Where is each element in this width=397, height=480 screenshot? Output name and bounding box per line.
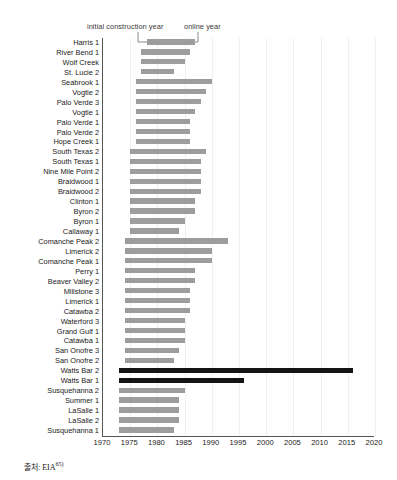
x-tick-1995: 1995 [230, 438, 247, 447]
table-row: Palo Verde 2 [103, 128, 375, 138]
x-tick-1975: 1975 [121, 438, 138, 447]
table-row: LaSalle 1 [103, 406, 375, 416]
table-row: Limerick 1 [103, 297, 375, 307]
table-row: Watts Bar 1 [103, 376, 375, 386]
x-tick-1985: 1985 [175, 438, 192, 447]
table-row: Grand Gulf 1 [103, 327, 375, 337]
bar-byron-1 [130, 218, 184, 223]
bar-south-texas-2 [130, 149, 206, 154]
row-label-south-texas-1: South Texas 1 [52, 158, 99, 166]
source-note: 출처: EIA65) [24, 461, 64, 472]
bar-palo-verde-1 [136, 119, 190, 124]
table-row: Summer 1 [103, 396, 375, 406]
table-row: South Texas 2 [103, 147, 375, 157]
legend-label-online-year: online year [184, 22, 221, 31]
bar-perry-1 [125, 268, 196, 273]
bar-watts-bar-1 [119, 378, 244, 383]
row-label-byron-1: Byron 1 [74, 218, 99, 226]
row-label-catawba-1: Catawba 1 [64, 337, 99, 345]
row-label-river-bend-1: River Bend 1 [56, 49, 99, 57]
bar-palo-verde-2 [136, 129, 190, 134]
bar-lasalle-1 [119, 407, 179, 412]
bar-limerick-2 [125, 248, 212, 253]
bar-susquehanna-2 [119, 388, 184, 393]
row-label-lasalle-2: LaSalle 2 [68, 417, 99, 425]
table-row: Susquehanna 2 [103, 386, 375, 396]
bar-clinton-1 [130, 198, 195, 203]
table-row: Nine Mile Point 2 [103, 167, 375, 177]
legend-label-initial-construction-year: initial construction year [87, 22, 163, 31]
row-label-limerick-2: Limerick 2 [65, 248, 99, 256]
bar-millstone-3 [125, 288, 190, 293]
table-row: Comanche Peak 1 [103, 257, 375, 267]
row-label-braidwood-1: Braidwood 1 [58, 178, 99, 186]
table-row: Palo Verde 3 [103, 98, 375, 108]
x-tick-2000: 2000 [257, 438, 274, 447]
table-row: Byron 2 [103, 207, 375, 217]
table-row: Hope Creek 1 [103, 138, 375, 148]
table-row: Perry 1 [103, 267, 375, 277]
row-label-palo-verde-1: Palo Verde 1 [57, 119, 99, 127]
row-label-comanche-peak-2: Comanche Peak 2 [38, 238, 99, 246]
row-label-byron-2: Byron 2 [74, 208, 99, 216]
row-label-braidwood-2: Braidwood 2 [58, 188, 99, 196]
table-row: South Texas 1 [103, 157, 375, 167]
row-label-summer-1: Summer 1 [65, 397, 99, 405]
row-label-palo-verde-3: Palo Verde 3 [57, 99, 99, 107]
row-label-millstone-3: Millstone 3 [64, 288, 99, 296]
table-row: Vogtle 1 [103, 108, 375, 118]
table-row: San Onofre 3 [103, 346, 375, 356]
bar-south-texas-1 [130, 159, 201, 164]
table-row: Harris 1 [103, 38, 375, 48]
row-label-comanche-peak-1: Comanche Peak 1 [38, 258, 99, 266]
row-label-vogtle-1: Vogtle 1 [72, 109, 99, 117]
table-row: Catawba 2 [103, 307, 375, 317]
row-label-hope-creek-1: Hope Creek 1 [53, 138, 99, 146]
table-row: Byron 1 [103, 217, 375, 227]
nuclear-reactor-construction-timeline-chart: initial construction year online year Ha… [0, 0, 397, 480]
table-row: Millstone 3 [103, 287, 375, 297]
table-row: Watts Bar 2 [103, 366, 375, 376]
row-label-watts-bar-1: Watts Bar 1 [61, 377, 99, 385]
bar-comanche-peak-1 [125, 258, 212, 263]
row-label-waterford-3: Waterford 3 [61, 318, 99, 326]
x-tick-2015: 2015 [338, 438, 355, 447]
x-tick-1990: 1990 [202, 438, 219, 447]
bar-vogtle-2 [136, 89, 207, 94]
bar-grand-gulf-1 [125, 328, 185, 333]
row-label-callaway-1: Callaway 1 [63, 228, 99, 236]
bar-seabrook-1 [136, 79, 212, 84]
bar-waterford-3 [125, 318, 185, 323]
row-label-palo-verde-2: Palo Verde 2 [57, 129, 99, 137]
row-label-beaver-valley-2: Beaver Valley 2 [48, 278, 99, 286]
table-row: Susquehanna 1 [103, 426, 375, 436]
x-tick-2005: 2005 [284, 438, 301, 447]
bar-byron-2 [130, 208, 195, 213]
row-label-san-onofre-2: San Onofre 2 [55, 357, 99, 365]
table-row: Wolf Creek [103, 58, 375, 68]
table-row: Palo Verde 1 [103, 118, 375, 128]
row-label-clinton-1: Clinton 1 [70, 198, 99, 206]
bar-catawba-1 [125, 338, 185, 343]
table-row: Braidwood 2 [103, 187, 375, 197]
bar-nine-mile-point-2 [130, 169, 201, 174]
plot-area: Harris 1River Bend 1Wolf CreekSt. Lucie … [102, 38, 374, 436]
x-axis-line [102, 436, 374, 437]
table-row: Clinton 1 [103, 197, 375, 207]
x-tick-1980: 1980 [148, 438, 165, 447]
table-row: Beaver Valley 2 [103, 277, 375, 287]
x-tick-2010: 2010 [311, 438, 328, 447]
bar-wolf-creek [141, 59, 185, 64]
bar-san-onofre-3 [125, 348, 179, 353]
gridline [375, 38, 376, 436]
table-row: Comanche Peak 2 [103, 237, 375, 247]
row-label-vogtle-2: Vogtle 2 [72, 89, 99, 97]
bar-limerick-1 [125, 298, 190, 303]
bar-summer-1 [119, 397, 179, 402]
row-label-catawba-2: Catawba 2 [64, 308, 99, 316]
row-label-harris-1: Harris 1 [73, 39, 99, 47]
row-label-watts-bar-2: Watts Bar 2 [61, 367, 99, 375]
table-row: Catawba 1 [103, 337, 375, 347]
bar-callaway-1 [130, 228, 179, 233]
bar-watts-bar-2 [119, 368, 353, 373]
